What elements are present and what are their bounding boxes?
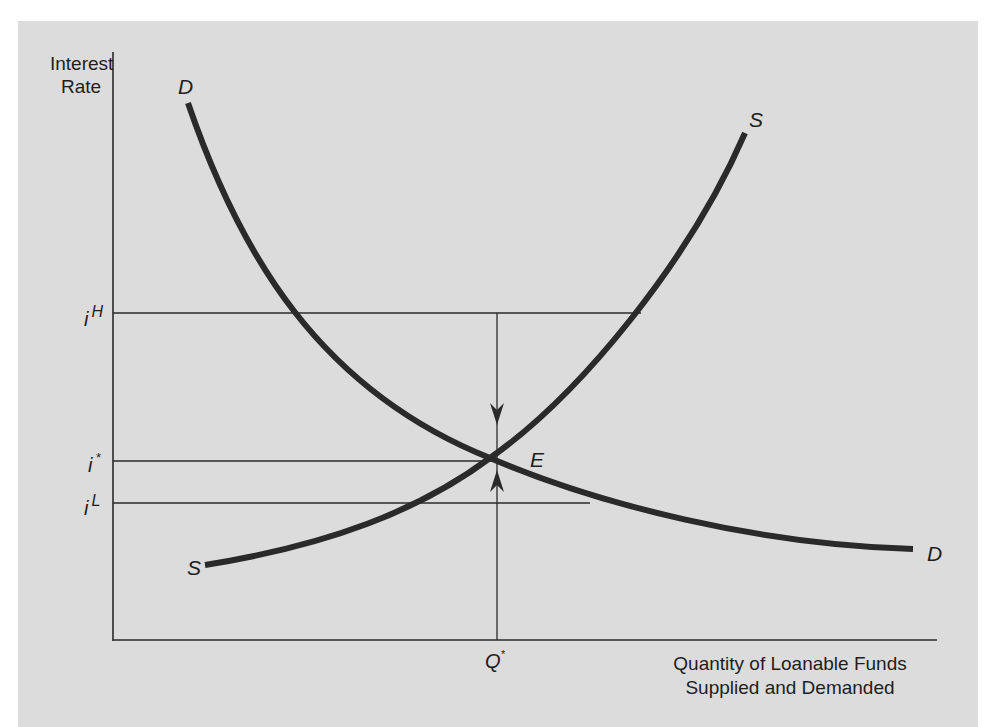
equilibrium-point-label: E xyxy=(530,448,544,472)
demand-end-label: D xyxy=(927,542,942,566)
equilibrium-rate-sup: * xyxy=(95,450,100,465)
y-axis-title: Interest Rate xyxy=(50,52,112,98)
quantity-base: Q xyxy=(485,650,501,672)
high-rate-label: iH xyxy=(84,308,103,331)
supply-start-label: S xyxy=(187,556,201,580)
y-axis-title-line1: Interest xyxy=(50,52,112,75)
low-rate-sup: L xyxy=(91,492,100,509)
y-axis-title-line2: Rate xyxy=(50,75,112,98)
high-rate-sup: H xyxy=(91,303,103,320)
demand-curve xyxy=(188,103,913,549)
equilibrium-rate-label: i* xyxy=(88,454,101,477)
low-rate-label: iL xyxy=(84,497,100,520)
quantity-sup: * xyxy=(501,648,505,660)
supply-curve xyxy=(205,133,745,565)
diagram-canvas xyxy=(0,0,989,727)
equilibrium-rate-base: i xyxy=(88,454,92,476)
low-rate-base: i xyxy=(84,497,88,519)
x-axis-title: Quantity of Loanable Funds Supplied and … xyxy=(640,652,940,700)
x-axis-title-line1: Quantity of Loanable Funds xyxy=(640,652,940,676)
x-axis-title-line2: Supplied and Demanded xyxy=(640,676,940,700)
demand-start-label: D xyxy=(178,75,193,99)
equilibrium-quantity-label: Q* xyxy=(485,650,505,673)
high-rate-base: i xyxy=(84,308,88,330)
supply-end-label: S xyxy=(749,108,763,132)
